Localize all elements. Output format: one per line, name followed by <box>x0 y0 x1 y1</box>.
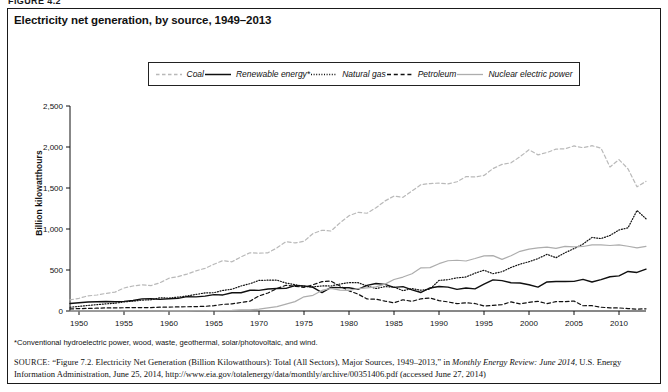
chart-footnote: *Conventional hydroelectric power, wood,… <box>14 338 644 347</box>
chart-legend: Coal Renewable energy* Natural gas Petro… <box>148 62 580 86</box>
coal-line-swatch-icon <box>156 70 182 79</box>
legend-item-petroleum: Petroleum <box>387 69 457 79</box>
source-italic-1: Monthly Energy Review: June 2014 <box>452 357 575 367</box>
chart-source-note: SOURCE: “Figure 7.2. Electricity Net Gen… <box>14 357 646 380</box>
nuclear-electric-power-line-swatch-icon <box>457 70 483 79</box>
natural-gas-line-swatch-icon <box>311 70 337 79</box>
renewable-energy-line-swatch-icon <box>205 70 231 79</box>
legend-label-nuclear: Nuclear electric power <box>488 69 572 79</box>
petroleum-line-swatch-icon <box>387 70 413 79</box>
legend-item-nuclear-electric-power: Nuclear electric power <box>457 69 572 79</box>
legend-label-natural-gas: Natural gas <box>342 69 385 79</box>
y-axis-title: Billion kilowatthours <box>34 133 44 253</box>
legend-label-coal: Coal <box>187 69 204 79</box>
source-prefix: SOURCE: <box>14 358 50 367</box>
legend-item-renewable-energy: Renewable energy* <box>205 69 310 79</box>
legend-label-petroleum: Petroleum <box>418 69 457 79</box>
source-text-1: “Figure 7.2. Electricity Net Generation … <box>52 357 452 367</box>
legend-label-renewable-energy: Renewable energy* <box>236 69 310 79</box>
figure-label: FIGURE 4.2 <box>8 0 61 6</box>
legend-item-natural-gas: Natural gas <box>311 69 385 79</box>
legend-item-coal: Coal <box>156 69 204 79</box>
page-title: Electricity net generation, by source, 1… <box>14 14 271 26</box>
